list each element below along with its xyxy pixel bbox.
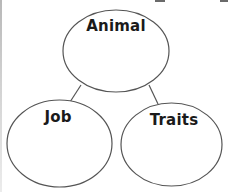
edge-animal-job (70, 85, 81, 102)
edge-animal-traits (149, 85, 158, 104)
node-animal-label: Animal (86, 17, 146, 35)
node-job-label: Job (44, 108, 71, 126)
node-traits-label: Traits (150, 111, 199, 129)
